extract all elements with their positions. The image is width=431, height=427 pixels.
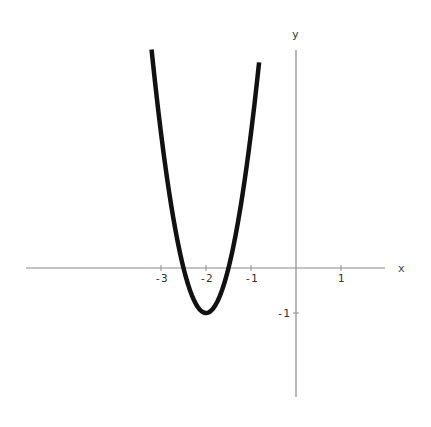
chart-canvas: -3-2-11-1 x y bbox=[0, 0, 431, 427]
y-axis-label: y bbox=[292, 28, 299, 41]
x-axis-label: x bbox=[398, 262, 405, 275]
x-tick-label: -1 bbox=[244, 272, 257, 285]
x-tick-label: 1 bbox=[338, 272, 345, 285]
tick-labels: -3-2-11-1 bbox=[154, 272, 344, 320]
x-tick-label: -2 bbox=[199, 272, 212, 285]
y-tick-label: -1 bbox=[277, 307, 290, 320]
x-tick-label: -3 bbox=[154, 272, 167, 285]
